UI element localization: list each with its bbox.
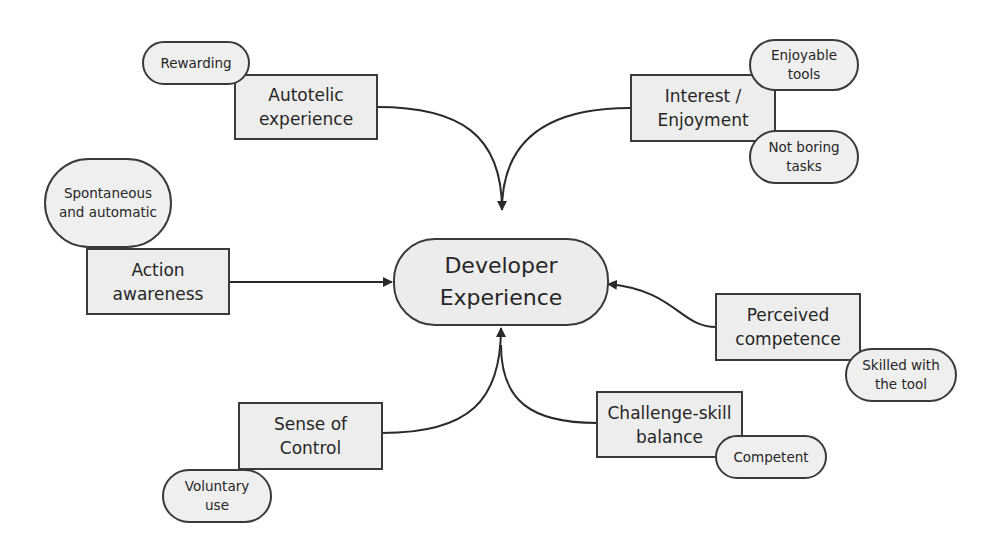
factor-line-2: competence bbox=[735, 327, 840, 351]
edge-perceived-to-center bbox=[608, 284, 716, 327]
tag-line-1: Competent bbox=[733, 448, 808, 467]
tag-not-boring-tasks[interactable]: Not boring tasks bbox=[749, 130, 859, 184]
factor-line-2: awareness bbox=[113, 282, 204, 306]
factor-node-perceived-competence[interactable]: Perceived competence bbox=[715, 293, 861, 361]
tag-skilled-with-the-tool[interactable]: Skilled with the tool bbox=[845, 348, 957, 402]
tag-enjoyable-tools[interactable]: Enjoyable tools bbox=[749, 39, 859, 91]
factor-line-2: experience bbox=[259, 107, 353, 131]
center-node-developer-experience[interactable]: Developer Experience bbox=[393, 238, 609, 326]
factor-line-1: Action bbox=[131, 258, 184, 282]
factor-node-interest-enjoyment[interactable]: Interest / Enjoyment bbox=[630, 74, 776, 142]
tag-spontaneous-and-automatic[interactable]: Spontaneous and automatic bbox=[44, 158, 172, 248]
edge-interest-to-center bbox=[502, 108, 630, 210]
tag-line-1: Spontaneous bbox=[64, 184, 152, 203]
factor-line-1: Perceived bbox=[747, 303, 830, 327]
tag-line-2: use bbox=[205, 496, 229, 515]
tag-rewarding[interactable]: Rewarding bbox=[142, 41, 250, 85]
edge-challenge-to-center bbox=[501, 345, 597, 423]
factor-line-1: Sense of bbox=[274, 412, 347, 436]
factor-line-1: Interest / bbox=[665, 84, 742, 108]
tag-voluntary-use[interactable]: Voluntary use bbox=[162, 469, 272, 523]
tag-line-1: Rewarding bbox=[160, 54, 231, 73]
edge-control-to-center bbox=[382, 328, 501, 433]
tag-line-2: tasks bbox=[786, 157, 821, 176]
tag-line-1: Enjoyable bbox=[771, 46, 837, 65]
factor-line-1: Challenge-skill bbox=[608, 401, 732, 425]
factor-line-2: Enjoyment bbox=[657, 108, 748, 132]
tag-line-2: and automatic bbox=[59, 203, 157, 222]
center-line-2: Experience bbox=[440, 282, 563, 314]
factor-node-action-awareness[interactable]: Action awareness bbox=[86, 248, 230, 315]
tag-line-1: Voluntary bbox=[185, 477, 249, 496]
factor-node-autotelic-experience[interactable]: Autotelic experience bbox=[234, 74, 378, 140]
factor-node-sense-of-control[interactable]: Sense of Control bbox=[238, 402, 383, 470]
tag-line-2: the tool bbox=[875, 375, 927, 394]
tag-competent[interactable]: Competent bbox=[715, 435, 827, 479]
factor-line-2: Control bbox=[280, 436, 341, 460]
tag-line-2: tools bbox=[788, 65, 821, 84]
edge-autotelic-to-center bbox=[377, 107, 502, 210]
tag-line-1: Skilled with bbox=[862, 356, 939, 375]
factor-line-1: Autotelic bbox=[268, 83, 343, 107]
center-line-1: Developer bbox=[444, 250, 557, 282]
tag-line-1: Not boring bbox=[768, 138, 839, 157]
factor-line-2: balance bbox=[636, 425, 703, 449]
